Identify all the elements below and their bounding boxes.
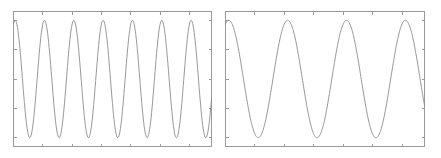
figure-canvas	[0, 0, 441, 158]
axes-frame-right	[226, 12, 425, 147]
plot-panel-right	[0, 0, 441, 158]
y-axis-ticks-right	[226, 20, 425, 137]
waveform-line-right	[226, 20, 425, 137]
plot-svg-right	[0, 0, 441, 158]
